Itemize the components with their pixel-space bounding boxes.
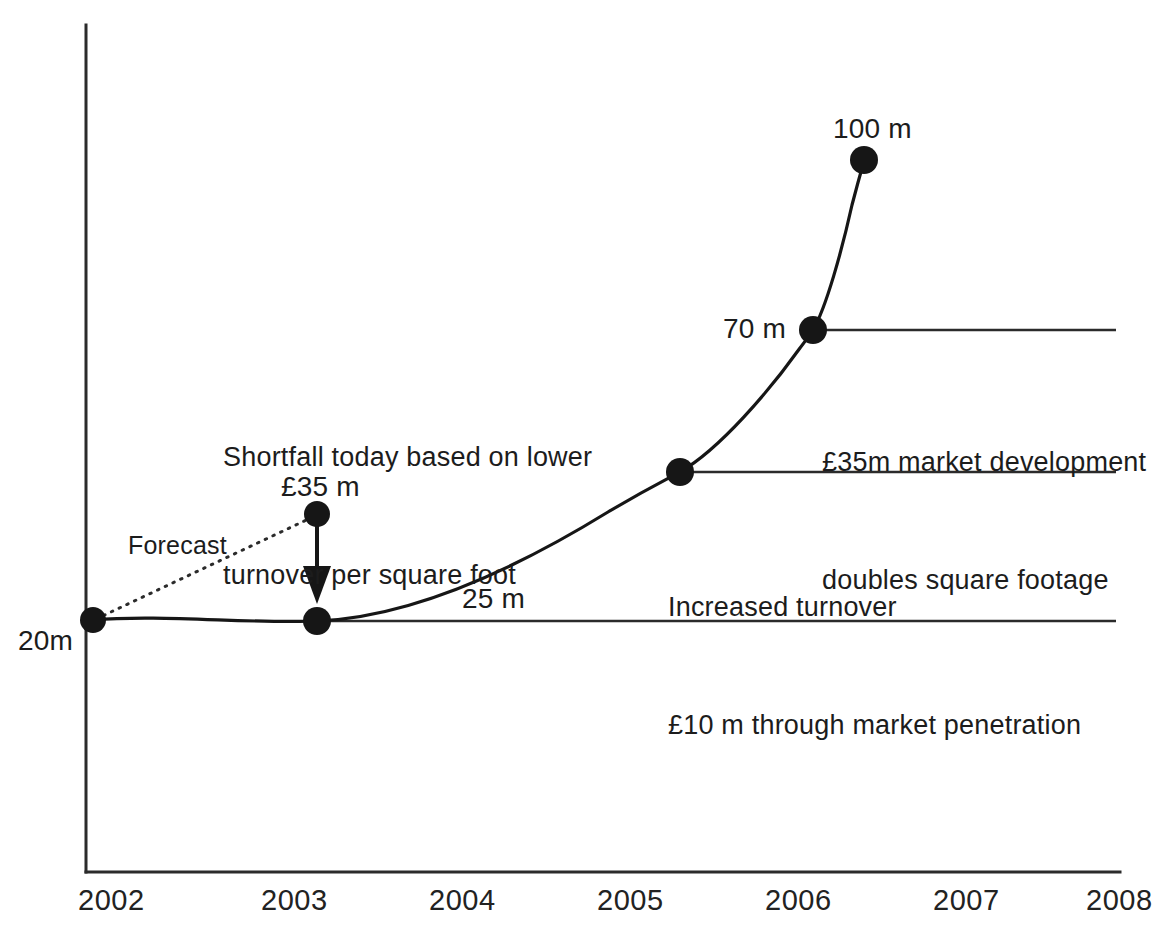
annotation-penetration-line2: £10 m through market penetration [668, 706, 1081, 745]
x-tick-label-2005: 2005 [597, 880, 664, 920]
x-tick-label-2006: 2006 [765, 880, 832, 920]
forecast-label: Forecast [128, 528, 227, 563]
value-label-100m: 100 m [833, 110, 912, 149]
data-point-70m[interactable] [799, 316, 827, 344]
annotation-shortfall: Shortfall today based on lower turnover … [223, 360, 592, 673]
x-tick-label-2004: 2004 [429, 880, 496, 920]
annotation-shortfall-line1: Shortfall today based on lower [223, 438, 592, 477]
annotation-penetration-line1: Increased turnover [668, 588, 1081, 627]
value-label-20m: 20m [18, 622, 73, 661]
x-tick-label-2007: 2007 [933, 880, 1000, 920]
chart-canvas: 2002 2003 2004 2005 2006 2007 2008 20m 2… [0, 0, 1155, 939]
annotation-shortfall-line2: turnover per square foot [223, 556, 592, 595]
annotation-market-penetration: Increased turnover £10 m through market … [668, 510, 1081, 823]
x-tick-label-2003: 2003 [261, 880, 328, 920]
data-point-20m[interactable] [80, 607, 106, 633]
data-point-100m[interactable] [850, 146, 878, 174]
x-tick-label-2002: 2002 [78, 880, 145, 920]
annotation-development-line1: £35m market development [822, 443, 1146, 482]
x-tick-label-2008: 2008 [1086, 880, 1153, 920]
value-label-70m: 70 m [723, 310, 786, 349]
data-point-45m[interactable] [666, 458, 694, 486]
